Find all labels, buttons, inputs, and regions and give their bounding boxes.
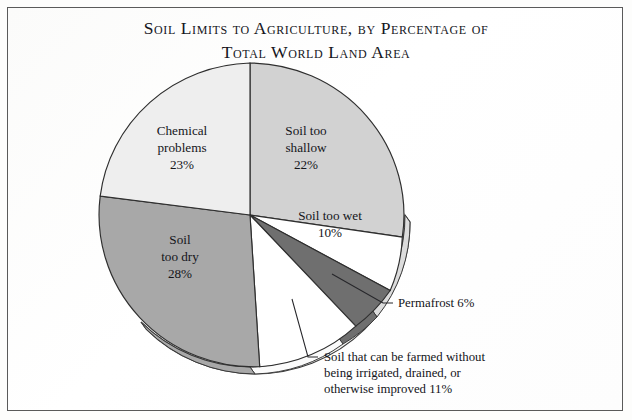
callout-label-farmed-line3: otherwise improved 11% <box>324 382 453 396</box>
slice-chemical-problems[interactable] <box>100 63 250 215</box>
label-shallow-value: 22% <box>294 157 318 172</box>
label-chemical-line1: Chemical <box>157 123 208 138</box>
label-chemical-line2: problems <box>157 140 206 155</box>
label-wet-value: 10% <box>318 225 342 240</box>
label-dry-line2: too dry <box>161 249 199 264</box>
callout-label-permafrost: Permafrost 6% <box>398 296 475 310</box>
label-chemical-value: 23% <box>170 157 194 172</box>
label-dry-value: 28% <box>168 266 192 281</box>
label-dry-line1: Soil <box>169 232 191 247</box>
slice-soil-too-dry[interactable] <box>99 196 260 367</box>
pie-chart: Soil too shallow 22% Soil too wet 10% So… <box>0 0 632 420</box>
callout-label-farmed-line1: Soil that can be farmed without <box>324 350 485 364</box>
pie-chart-svg: Soil too shallow 22% Soil too wet 10% So… <box>0 0 632 420</box>
label-wet-line1: Soil too wet <box>298 208 362 223</box>
figure-container: Soil Limits to Agriculture, by Percentag… <box>0 0 632 420</box>
callout-label-farmed-line2: being irrigated, drained, or <box>324 366 462 380</box>
label-shallow-line1: Soil too <box>285 123 327 138</box>
label-shallow-line2: shallow <box>285 140 327 155</box>
